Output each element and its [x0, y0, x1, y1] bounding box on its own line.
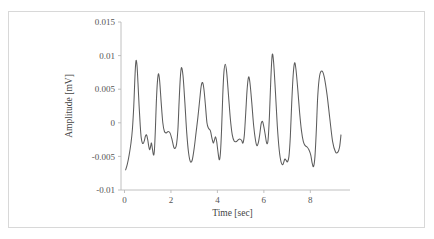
x-tick-label: 2	[169, 195, 174, 205]
x-tick-label: 4	[215, 195, 220, 205]
data-series-line	[126, 54, 341, 170]
y-tick-label: -0.005	[92, 152, 116, 162]
y-tick-label: -0.01	[96, 185, 115, 195]
x-axis: 02468	[121, 190, 350, 205]
line-chart: -0.01-0.00500.0050.010.015 02468 Time [s…	[0, 0, 434, 239]
y-tick-label: 0.01	[99, 51, 115, 61]
y-axis: -0.01-0.00500.0050.010.015	[92, 17, 121, 195]
y-tick-label: 0	[111, 118, 116, 128]
x-axis-ticks: 02468	[122, 190, 313, 205]
y-axis-ticks: -0.01-0.00500.0050.010.015	[92, 17, 121, 195]
y-tick-label: 0.005	[95, 84, 116, 94]
x-tick-label: 8	[308, 195, 313, 205]
y-axis-title: Amplitude [mV]	[64, 74, 74, 138]
figure-root: -0.01-0.00500.0050.010.015 02468 Time [s…	[0, 0, 434, 239]
x-axis-title: Time [sec]	[212, 208, 253, 218]
x-tick-label: 0	[122, 195, 127, 205]
x-tick-label: 6	[262, 195, 267, 205]
y-tick-label: 0.015	[95, 17, 116, 27]
